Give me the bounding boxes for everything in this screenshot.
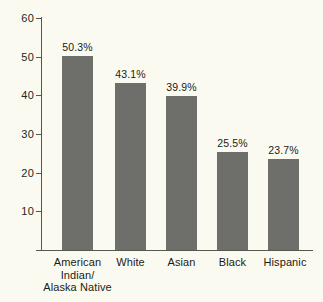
y-axis-tick-10 xyxy=(36,211,41,212)
y-axis-tick-20 xyxy=(36,173,41,174)
bar-value-hispanic: 23.7% xyxy=(253,145,314,156)
x-axis-label-black: Black xyxy=(206,256,259,269)
bar-value-american-indian-alaska-native: 50.3% xyxy=(47,42,108,53)
y-axis-tick-0 xyxy=(36,250,41,251)
bar-hispanic xyxy=(268,159,299,250)
x-axis-label-asian: Asian xyxy=(155,256,208,269)
bar-asian xyxy=(166,96,197,250)
y-axis-label-10: 10 xyxy=(0,206,34,217)
bar-white xyxy=(115,83,146,250)
x-axis-label-hispanic: Hispanic xyxy=(257,256,313,269)
bar-chart-figure: 10 20 30 40 50 60 50.3% American Indian/… xyxy=(0,0,323,302)
y-axis-label-20: 20 xyxy=(0,168,34,179)
y-axis-label-50: 50 xyxy=(0,52,34,63)
bar-black xyxy=(217,152,248,250)
y-axis-tick-50 xyxy=(36,57,41,58)
y-axis-tick-30 xyxy=(36,134,41,135)
y-axis-line xyxy=(41,17,42,251)
bar-value-white: 43.1% xyxy=(100,69,161,80)
x-axis-line xyxy=(41,250,313,251)
bar-value-asian: 39.9% xyxy=(151,82,212,93)
bar-american-indian-alaska-native xyxy=(62,56,93,250)
y-axis-tick-40 xyxy=(36,95,41,96)
y-axis-tick-60 xyxy=(36,18,41,19)
y-axis-label-40: 40 xyxy=(0,90,34,101)
y-axis-label-60: 60 xyxy=(0,13,34,24)
x-axis-label-white: White xyxy=(104,256,157,269)
y-axis-label-30: 30 xyxy=(0,129,34,140)
